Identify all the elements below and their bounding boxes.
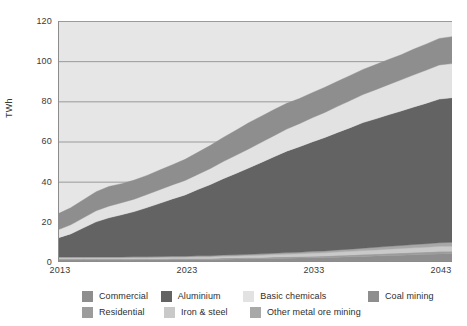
y-axis-tick-80: 80 — [42, 96, 52, 106]
legend-item-coal-mining[interactable]: Coal mining — [368, 291, 454, 302]
legend-row-2: Residential Iron & steel Other metal ore… — [82, 304, 462, 320]
legend-swatch-basic-chemicals — [243, 291, 254, 302]
stacked-area-series-group — [58, 21, 452, 262]
legend-swatch-other-metal-ore-mining — [250, 307, 261, 318]
legend-label-iron-and-steel: Iron & steel — [181, 307, 228, 317]
x-axis-tick-2033: 2033 — [304, 265, 325, 275]
legend-item-commercial[interactable]: Commercial — [82, 291, 153, 302]
legend-item-basic-chemicals[interactable]: Basic chemicals — [243, 291, 360, 302]
legend-item-iron-and-steel[interactable]: Iron & steel — [164, 307, 242, 318]
legend-item-aluminium[interactable]: Aluminium — [161, 291, 236, 302]
legend-row-1: Commercial Aluminium Basic chemicals Coa… — [82, 288, 462, 304]
y-axis-tick-20: 20 — [42, 217, 52, 227]
x-axis-tick-2023: 2023 — [177, 265, 198, 275]
legend-label-aluminium: Aluminium — [178, 291, 221, 301]
chart-container: TWh 0 20 40 60 80 100 120 2013 2023 2033… — [0, 0, 467, 326]
legend-swatch-residential — [82, 307, 93, 318]
y-axis-tick-group: 0 20 40 60 80 100 120 — [0, 0, 52, 326]
y-axis-tick-60: 60 — [42, 136, 52, 146]
legend-label-other-metal-ore-mining: Other metal ore mining — [267, 307, 361, 317]
legend-swatch-iron-and-steel — [164, 307, 175, 318]
x-axis-tick-2013: 2013 — [50, 265, 71, 275]
legend-label-coal-mining: Coal mining — [385, 291, 434, 301]
legend-label-residential: Residential — [99, 307, 145, 317]
legend-swatch-coal-mining — [368, 291, 379, 302]
legend-label-basic-chemicals: Basic chemicals — [260, 291, 326, 301]
legend-item-other-metal-ore-mining[interactable]: Other metal ore mining — [250, 307, 372, 318]
legend-swatch-aluminium — [161, 291, 172, 302]
legend: Commercial Aluminium Basic chemicals Coa… — [82, 288, 462, 320]
y-axis-tick-120: 120 — [36, 16, 52, 26]
legend-item-residential[interactable]: Residential — [82, 307, 156, 318]
legend-label-commercial: Commercial — [99, 291, 148, 301]
y-axis-tick-40: 40 — [42, 177, 52, 187]
legend-swatch-commercial — [82, 291, 93, 302]
y-axis-tick-100: 100 — [36, 56, 52, 66]
x-axis-tick-2043: 2043 — [431, 265, 452, 275]
plot-area — [58, 21, 452, 262]
